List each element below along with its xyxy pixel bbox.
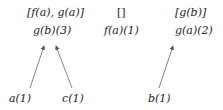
node-top-right-label: [g(b)] [175, 7, 206, 19]
node-top-left-label: [f(a), g(a)] [27, 7, 84, 19]
leaf-c-label: c(1) [62, 93, 84, 105]
leaf-b-label: b(1) [148, 93, 171, 105]
node-top-middle-sub: f(a)(1) [104, 25, 139, 37]
edge-c-to-topleft [56, 46, 72, 88]
leaf-a-label: a(1) [9, 93, 31, 105]
edge-a-to-topleft [30, 46, 44, 88]
node-top-middle-label: [] [117, 7, 126, 19]
node-top-left-sub: g(b)(3) [33, 25, 71, 37]
edge-b-to-topright [159, 46, 173, 88]
node-top-right-sub: g(a)(2) [175, 25, 213, 37]
